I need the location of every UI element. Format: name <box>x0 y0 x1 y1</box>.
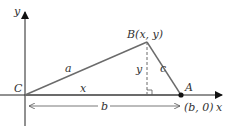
base-b-label: b <box>101 100 108 113</box>
y-axis-label: y <box>13 5 21 18</box>
triangle-diagram: y x C B(x, y) A (b, 0) a c x y b <box>0 0 230 131</box>
vertex-c-label: C <box>14 82 23 95</box>
x-axis-label: x <box>216 101 223 114</box>
vertex-a-label: A <box>184 81 193 94</box>
side-c-label: c <box>160 62 166 75</box>
vertex-b-label: B(x, y) <box>126 28 163 41</box>
segment-x-label: x <box>80 82 87 95</box>
altitude-y-label: y <box>135 63 143 76</box>
point-a <box>178 92 183 97</box>
point-a-coords: (b, 0) <box>184 101 214 114</box>
side-a-label: a <box>65 62 72 75</box>
